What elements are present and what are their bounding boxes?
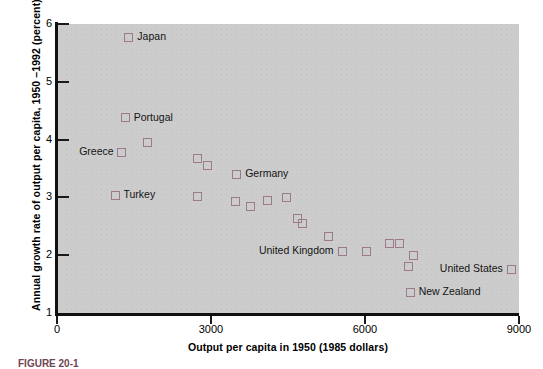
point-label-new-zealand: New Zealand [419, 286, 481, 297]
scatter-point [409, 251, 418, 260]
scatter-point-japan [124, 33, 133, 42]
scatter-point [324, 232, 333, 241]
scatter-point-new-zealand [406, 288, 415, 297]
scatter-point-portugal [121, 113, 130, 122]
x-axis-title: Output per capita in 1950 (1985 dollars) [57, 341, 519, 353]
scatter-point [193, 154, 202, 163]
point-label-portugal: Portugal [134, 112, 173, 123]
scatter-point [203, 161, 212, 170]
x-axis-tick-label: 9000 [495, 324, 543, 335]
scatter-point-greece [117, 148, 126, 157]
x-axis-tick-label: 3000 [187, 324, 235, 335]
figure-caption: FIGURE 20-1 [18, 358, 79, 369]
point-label-united-kingdom: United Kingdom [259, 245, 334, 256]
y-axis-tick [58, 196, 69, 198]
scatter-point [385, 239, 394, 248]
y-axis-tick [58, 81, 69, 83]
y-axis-line [55, 22, 58, 315]
scatter-point-germany [232, 170, 241, 179]
scatter-point [282, 193, 291, 202]
y-axis-tick [58, 139, 69, 141]
y-axis-tick [58, 254, 69, 256]
point-label-germany: Germany [245, 168, 288, 179]
scatter-point [395, 239, 404, 248]
point-label-united-states: United States [440, 263, 503, 274]
point-label-japan: Japan [137, 31, 166, 42]
point-label-greece: Greece [79, 146, 113, 157]
x-axis-line [55, 313, 519, 316]
y-axis-tick [58, 23, 69, 25]
scatter-point-united-kingdom [338, 247, 347, 256]
scatter-point [404, 262, 413, 271]
point-label-turkey: Turkey [124, 189, 156, 200]
scatter-point [298, 219, 307, 228]
scatter-point [246, 202, 255, 211]
scatter-point [143, 138, 152, 147]
scatter-point [193, 192, 202, 201]
scatter-point [362, 247, 371, 256]
scatter-point-turkey [111, 191, 120, 200]
x-axis-tick-label: 0 [33, 324, 81, 335]
x-axis-tick-label: 6000 [341, 324, 389, 335]
scatter-point-united-states [507, 265, 516, 274]
scatter-point [263, 196, 272, 205]
scatter-point [231, 197, 240, 206]
y-axis-title: Annual growth rate of output per capita,… [30, 11, 42, 311]
